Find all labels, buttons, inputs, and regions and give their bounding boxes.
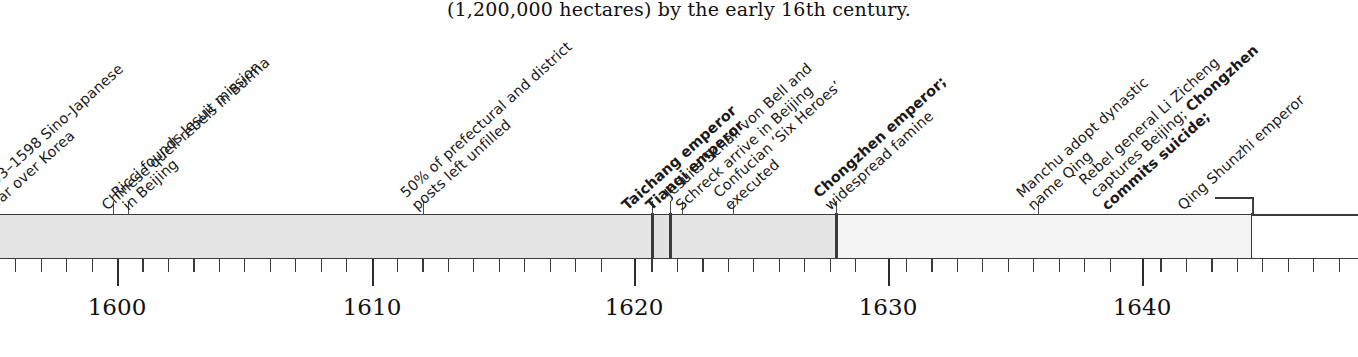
reign-boundary — [670, 213, 672, 259]
event-tick — [1252, 201, 1253, 215]
axis-tick-minor — [855, 259, 856, 272]
axis-tick-minor — [66, 259, 67, 272]
axis-tick-minor — [1237, 259, 1238, 272]
reign-segment — [0, 215, 652, 258]
axis-tick-minor — [906, 259, 907, 272]
axis-tick-minor — [448, 259, 449, 272]
axis-tick-minor — [92, 259, 93, 272]
axis-tick-minor — [1110, 259, 1111, 272]
axis-tick-minor — [219, 259, 220, 272]
axis-tick-minor — [601, 259, 602, 272]
axis-tick-minor — [346, 259, 347, 272]
reign-boundary — [652, 213, 654, 259]
axis-tick-minor — [321, 259, 322, 272]
axis-tick-major — [1142, 259, 1144, 286]
axis-tick-minor — [1288, 259, 1289, 272]
axis-tick-minor — [244, 259, 245, 272]
axis-tick-minor — [193, 259, 194, 272]
axis-tick-minor — [397, 259, 398, 272]
axis-tick-major — [634, 259, 636, 286]
axis-year-label: 1630 — [859, 294, 918, 320]
axis-tick-minor — [499, 259, 500, 272]
reign-segment — [670, 215, 836, 258]
axis-tick-minor — [168, 259, 169, 272]
axis-tick-minor — [677, 259, 678, 272]
axis-tick-major — [888, 259, 890, 286]
axis-tick-minor — [1008, 259, 1009, 272]
axis-tick-minor — [753, 259, 754, 272]
event-label: 50% of prefectural and districtposts lef… — [397, 38, 587, 214]
timeline-chart: 1593–1598 Sino-Japanesewar over KoreaChi… — [0, 0, 1358, 357]
axis-tick-minor — [41, 259, 42, 272]
axis-tick-minor — [1059, 259, 1060, 272]
axis-tick-minor — [575, 259, 576, 272]
axis-tick-minor — [550, 259, 551, 272]
bracket-top — [1215, 197, 1253, 199]
axis-tick-minor — [982, 259, 983, 272]
axis-tick-minor — [1084, 259, 1085, 272]
axis-tick-minor — [524, 259, 525, 272]
axis-tick-minor — [1033, 259, 1034, 272]
axis-tick-minor — [473, 259, 474, 272]
reign-boundary — [1251, 213, 1253, 259]
axis-tick-minor — [931, 259, 932, 272]
axis-tick-minor — [728, 259, 729, 272]
axis-tick-minor — [804, 259, 805, 272]
event-label-line: 50% of prefectural and district — [397, 38, 575, 201]
axis-tick-major — [372, 259, 374, 286]
axis-tick-minor — [15, 259, 16, 272]
axis-tick-minor — [1339, 259, 1340, 272]
axis-tick-minor — [651, 259, 652, 272]
event-tick — [670, 201, 671, 215]
reign-segment — [652, 215, 670, 258]
axis-rule — [0, 258, 1358, 259]
axis-tick-minor — [779, 259, 780, 272]
axis-tick-minor — [295, 259, 296, 272]
axis-tick-minor — [1186, 259, 1187, 272]
axis-year-label: 1640 — [1113, 294, 1172, 320]
axis-tick-minor — [830, 259, 831, 272]
axis-tick-minor — [957, 259, 958, 272]
axis-tick-minor — [1211, 259, 1212, 272]
reign-boundary — [836, 213, 838, 259]
axis-tick-minor — [1313, 259, 1314, 272]
axis-tick-minor — [142, 259, 143, 272]
axis-tick-minor — [1160, 259, 1161, 272]
event-label-line: posts left unfilled — [409, 51, 587, 214]
axis-tick-major — [117, 259, 119, 286]
axis-tick-minor — [270, 259, 271, 272]
event-label-line: in Beijing — [120, 71, 276, 214]
axis-tick-minor — [422, 259, 423, 272]
reign-segment — [836, 215, 1252, 258]
axis-year-label: 1610 — [343, 294, 402, 320]
axis-tick-minor — [702, 259, 703, 272]
axis-year-label: 1620 — [605, 294, 664, 320]
axis-tick-minor — [1262, 259, 1263, 272]
axis-year-label: 1600 — [88, 294, 147, 320]
shunzhi-bracket — [1215, 197, 1253, 216]
